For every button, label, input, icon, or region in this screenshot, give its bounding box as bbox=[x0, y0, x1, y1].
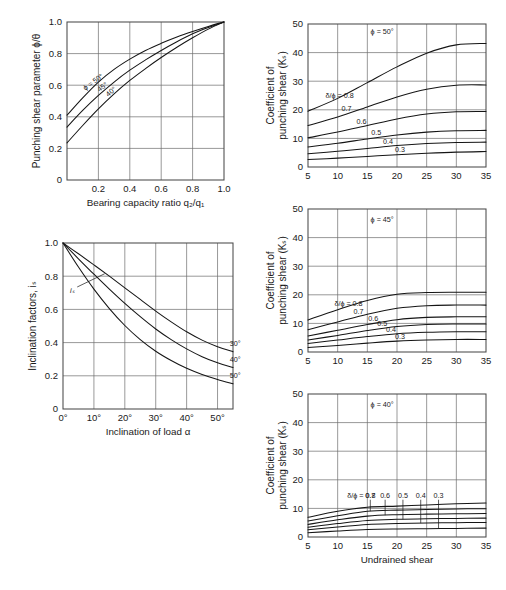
y-axis-title-line: Coefficient of bbox=[265, 251, 276, 309]
chart-title-phi: ϕ = 40° bbox=[371, 400, 394, 409]
x-tick-label: 0.2 bbox=[92, 183, 105, 194]
series-label-0.8: δ/ϕ = 0.8 bbox=[326, 91, 354, 100]
x-tick-label: 30 bbox=[451, 170, 462, 181]
y-tick-label: 20 bbox=[292, 104, 303, 115]
y-tick-label: 0 bbox=[298, 531, 303, 542]
x-tick-label: 35 bbox=[481, 170, 492, 181]
y-axis-title: Punching shear parameter ϕ/θ bbox=[31, 33, 42, 168]
series-label-0.7: 0.7 bbox=[353, 307, 363, 316]
x-tick-label: 5 bbox=[305, 540, 310, 551]
y-axis-title-line: Inclination factors, iₛ bbox=[27, 281, 38, 371]
y-tick-label: 10 bbox=[292, 133, 303, 144]
x-tick-label: 25 bbox=[421, 540, 432, 551]
series-label-0.7: 0.7 bbox=[365, 491, 375, 500]
y-tick-label: 10 bbox=[292, 318, 303, 329]
data-curve-30° bbox=[63, 243, 233, 352]
x-tick-label: 25 bbox=[421, 355, 432, 366]
y-tick-label: 1.0 bbox=[45, 237, 58, 248]
y-tick-label: 50 bbox=[292, 18, 303, 29]
x-tick-label: 40° bbox=[179, 412, 194, 423]
plot-frame bbox=[63, 243, 233, 409]
chart-punching-shear-coefficient-phi-40: 510152025303501020304050Undrained shearC… bbox=[265, 388, 492, 565]
x-tick-label: 15 bbox=[362, 540, 373, 551]
y-axis-title-line: punching shear (Kₛ) bbox=[277, 236, 288, 325]
series-label-0.3: 0.3 bbox=[395, 332, 405, 341]
figure-panel: 0.20.40.60.81.000.20.40.60.81.0Bearing c… bbox=[0, 0, 506, 590]
y-tick-label: 0.2 bbox=[49, 143, 62, 154]
series-label-0.3: 0.3 bbox=[395, 145, 405, 154]
figure-svg: 0.20.40.60.81.000.20.40.60.81.0Bearing c… bbox=[0, 0, 506, 590]
series-label-0.4: 0.4 bbox=[416, 491, 426, 500]
y-tick-label: 40 bbox=[292, 232, 303, 243]
y-tick-label: 0.2 bbox=[45, 370, 58, 381]
y-tick-label: 0.4 bbox=[45, 337, 58, 348]
curve-annotation-is: iₛ bbox=[70, 286, 75, 295]
x-tick-label: 0° bbox=[58, 412, 67, 423]
curve-label-30°: 30° bbox=[230, 339, 241, 348]
x-tick-label: 10 bbox=[332, 540, 343, 551]
data-curve-45° bbox=[67, 22, 224, 127]
x-tick-label: 30 bbox=[451, 355, 462, 366]
series-label-0.6: 0.6 bbox=[380, 491, 390, 500]
series-label-0.7: 0.7 bbox=[342, 104, 352, 113]
y-tick-label: 40 bbox=[292, 47, 303, 58]
y-axis-title-line: Coefficient of bbox=[265, 66, 276, 124]
y-tick-label: 30 bbox=[292, 446, 303, 457]
x-tick-label: 0.8 bbox=[186, 183, 199, 194]
y-tick-label: 50 bbox=[292, 203, 303, 214]
curve-label-40°: 40° bbox=[230, 355, 241, 364]
x-tick-label: 0.6 bbox=[155, 183, 168, 194]
x-tick-label: 10 bbox=[332, 355, 343, 366]
x-tick-label: 15 bbox=[362, 170, 373, 181]
y-tick-label: 0 bbox=[53, 403, 58, 414]
y-tick-label: 20 bbox=[292, 289, 303, 300]
series-label-0.5: 0.5 bbox=[371, 128, 381, 137]
x-tick-label: 15 bbox=[362, 355, 373, 366]
curve-label-50°: 50° bbox=[230, 371, 241, 380]
y-tick-label: 1.0 bbox=[49, 16, 62, 27]
series-label-0.5: 0.5 bbox=[398, 491, 408, 500]
x-tick-label: 1.0 bbox=[217, 183, 230, 194]
x-tick-label: 20° bbox=[118, 412, 133, 423]
y-axis-title: Coefficient ofpunching shear (Kₛ) bbox=[265, 421, 289, 510]
chart-punching-shear-parameter: 0.20.40.60.81.000.20.40.60.81.0Bearing c… bbox=[31, 16, 231, 208]
x-tick-label: 5 bbox=[305, 355, 310, 366]
x-tick-label: 50° bbox=[210, 412, 225, 423]
plot-frame bbox=[67, 22, 224, 180]
x-tick-label: 0.4 bbox=[123, 183, 136, 194]
chart-title-phi: ϕ = 50° bbox=[371, 27, 394, 36]
y-axis-title-line: punching shear (Kₛ) bbox=[277, 51, 288, 140]
data-curve-50° bbox=[63, 243, 233, 384]
y-tick-label: 0.6 bbox=[49, 80, 62, 91]
y-axis-title-line: Punching shear parameter ϕ/θ bbox=[31, 33, 42, 168]
y-tick-label: 40 bbox=[292, 417, 303, 428]
x-tick-label: 20 bbox=[392, 170, 403, 181]
x-axis-title: Undrained shear bbox=[361, 554, 434, 565]
x-tick-label: 20 bbox=[392, 355, 403, 366]
y-tick-label: 50 bbox=[292, 388, 303, 399]
y-axis-title-line: punching shear (Kₛ) bbox=[277, 421, 288, 510]
y-axis-title-line: Coefficient of bbox=[265, 436, 276, 494]
y-tick-label: 0 bbox=[298, 161, 303, 172]
x-tick-label: 25 bbox=[421, 170, 432, 181]
series-label-0.4: 0.4 bbox=[383, 137, 393, 146]
x-tick-label: 30 bbox=[451, 540, 462, 551]
y-axis-title: Inclination factors, iₛ bbox=[27, 281, 38, 371]
chart-punching-shear-coefficient-phi-45: 510152025303501020304050Coefficient ofpu… bbox=[265, 203, 492, 366]
x-axis-title: Bearing capacity ratio q₂/q₁ bbox=[87, 197, 205, 208]
series-label-0.3: 0.3 bbox=[434, 491, 444, 500]
chart-inclination-factors: 0°10°20°30°40°50°00.20.40.60.81.0Inclina… bbox=[27, 237, 241, 437]
x-axis-title: Inclination of load α bbox=[106, 426, 191, 437]
y-axis-title: Coefficient ofpunching shear (Kₛ) bbox=[265, 236, 289, 325]
x-tick-label: 5 bbox=[305, 170, 310, 181]
y-tick-label: 0 bbox=[57, 174, 62, 185]
x-tick-label: 35 bbox=[481, 540, 492, 551]
x-tick-label: 30° bbox=[149, 412, 164, 423]
chart-punching-shear-coefficient-phi-50: 510152025303501020304050Coefficient ofpu… bbox=[265, 18, 492, 181]
y-tick-label: 30 bbox=[292, 76, 303, 87]
x-tick-label: 35 bbox=[481, 355, 492, 366]
y-tick-label: 0.8 bbox=[45, 271, 58, 282]
y-tick-label: 30 bbox=[292, 261, 303, 272]
y-tick-label: 0 bbox=[298, 346, 303, 357]
y-tick-label: 0.6 bbox=[45, 304, 58, 315]
